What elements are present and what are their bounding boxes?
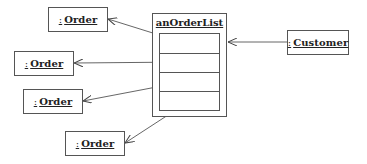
order-object-2: :Order bbox=[14, 51, 74, 76]
object-name: Customer bbox=[293, 37, 348, 48]
order-list-collection: anOrderList bbox=[152, 13, 227, 117]
slot-divider bbox=[160, 53, 219, 54]
order-list-title: anOrderList bbox=[153, 17, 226, 28]
order-object-4: :Order bbox=[65, 131, 125, 156]
slot-divider bbox=[160, 91, 219, 92]
order-object-1: :Order bbox=[48, 7, 108, 32]
object-name: Order bbox=[30, 58, 63, 69]
order-object-3: :Order bbox=[23, 89, 83, 114]
object-name: Order bbox=[39, 96, 72, 107]
object-name: Order bbox=[81, 138, 114, 149]
slot-divider bbox=[160, 72, 219, 73]
customer-object: :Customer bbox=[287, 30, 349, 55]
object-name: Order bbox=[64, 14, 97, 25]
order-list-slots bbox=[159, 33, 220, 111]
